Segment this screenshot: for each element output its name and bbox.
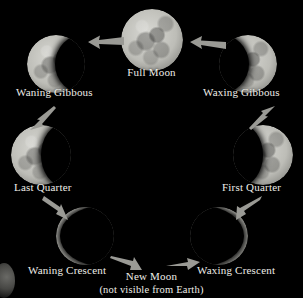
- moon-last-quarter: [11, 125, 71, 185]
- arrow-waxing-crescent-to-first-quarter: [236, 196, 262, 220]
- label-full-moon: Full Moon: [0, 66, 303, 78]
- label-new-moon-sublabel: (not visible from Earth): [0, 284, 303, 295]
- label-first-quarter: First Quarter: [222, 181, 281, 193]
- arrow-waxing-gibbous-to-full: [190, 36, 226, 52]
- arrow-last-quarter-to-waning-crescent: [42, 196, 68, 220]
- label-waning-gibbous: Waning Gibbous: [16, 86, 93, 98]
- arrow-first-quarter-to-waxing-gibbous: [249, 106, 275, 132]
- moon-full-moon: [121, 9, 183, 71]
- moon-first-quarter: [233, 125, 293, 185]
- moon-disc-full-moon: [121, 9, 183, 71]
- moon-phases-diagram: Full Moon Waning Gibbous Waxing Gibbous …: [0, 0, 303, 298]
- moon-waxing-gibbous: [219, 35, 277, 93]
- label-waxing-gibbous: Waxing Gibbous: [203, 86, 280, 98]
- label-last-quarter: Last Quarter: [14, 181, 72, 193]
- arrow-waning-gibbous-to-last-quarter: [30, 106, 56, 132]
- label-new-moon: New Moon: [0, 270, 303, 282]
- arrow-full-to-waning-gibbous: [88, 34, 124, 50]
- moon-waning-gibbous: [27, 35, 85, 93]
